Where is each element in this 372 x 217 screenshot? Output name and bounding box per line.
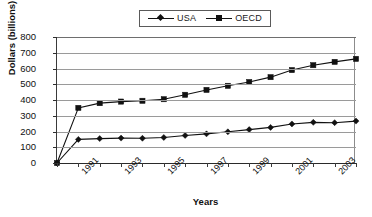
y-tick-mark [53,132,57,133]
y-tick-label: 0 [2,158,36,168]
y-tick-label: 100 [2,142,36,152]
x-tick-mark [271,163,272,167]
y-tick-label: 500 [2,79,36,89]
legend-entry-oecd: OECD [206,14,262,23]
y-tick-mark [53,100,57,101]
x-tick-mark [228,163,229,167]
square-marker-icon [206,14,232,23]
data-point-oecd [97,101,102,106]
legend-label-oecd: OECD [235,14,262,23]
y-tick-label: 700 [2,48,36,58]
x-tick-mark [292,163,293,167]
line-chart: USA OECD Dollars (billions) 800700600500… [0,0,372,217]
y-tick-label: 600 [2,64,36,74]
x-tick-mark [313,163,314,167]
data-point-usa [353,118,359,124]
gridline [57,84,356,85]
data-point-usa [139,135,145,141]
gridline [57,147,356,148]
data-point-oecd [76,105,81,110]
y-tick-mark [53,84,57,85]
x-tick-mark [249,163,250,167]
data-point-usa [97,136,103,142]
x-tick-mark [57,163,58,167]
x-tick-mark [121,163,122,167]
x-tick-mark [356,163,357,167]
data-point-usa [289,121,295,127]
gridline [57,53,356,54]
y-tick-mark [53,69,57,70]
y-tick-mark [53,116,57,117]
data-point-usa [310,119,316,125]
gridline [57,132,356,133]
data-point-oecd [183,92,188,97]
data-point-usa [332,120,338,126]
legend-entry-usa: USA [148,14,196,23]
y-tick-label: 300 [2,111,36,121]
y-tick-label: 800 [2,32,36,42]
data-point-usa [161,134,167,140]
gridline [57,37,356,38]
legend-label-usa: USA [177,14,196,23]
x-tick-mark [78,163,79,167]
plot-area: 8007006005004003002001000199119931995199… [56,37,355,163]
y-tick-label: 200 [2,127,36,137]
x-tick-mark [185,163,186,167]
y-tick-mark [53,37,57,38]
gridline [57,69,356,70]
data-point-oecd [204,87,209,92]
data-point-usa [182,132,188,138]
x-tick-mark [335,163,336,167]
data-point-oecd [311,63,316,68]
data-point-usa [118,135,124,141]
x-tick-mark [142,163,143,167]
x-axis-title: Years [56,196,355,207]
y-tick-mark [53,53,57,54]
gridline [57,116,356,117]
data-point-oecd [353,56,358,61]
x-tick-mark [207,163,208,167]
y-tick-label: 400 [2,95,36,105]
data-point-oecd [268,75,273,80]
y-tick-mark [53,147,57,148]
data-point-oecd [332,59,337,64]
x-tick-mark [164,163,165,167]
chart-legend: USA OECD [139,10,271,27]
diamond-marker-icon [148,14,174,23]
data-point-usa [268,124,274,130]
series-line-usa [57,121,356,163]
x-tick-mark [100,163,101,167]
gridline [57,100,356,101]
